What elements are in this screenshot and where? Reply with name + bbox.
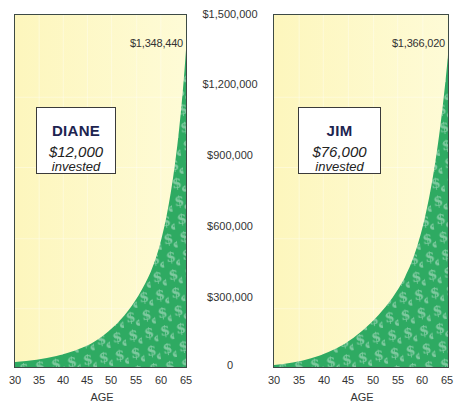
y-tick-1500000: $1,500,000 xyxy=(187,8,273,20)
diane-area-chart: $ $ xyxy=(15,15,186,367)
left-x-tick-30: 30 xyxy=(5,374,25,386)
left-x-tick-50: 50 xyxy=(101,374,121,386)
y-tick-300000: $300,000 xyxy=(187,291,273,303)
right-x-tick-50: 50 xyxy=(363,374,383,386)
y-tick-600000: $600,000 xyxy=(187,220,273,232)
diane-invested-label: invested xyxy=(37,159,115,174)
jim-name: JIM xyxy=(299,122,380,139)
right-x-tick-35: 35 xyxy=(289,374,309,386)
diane-name: DIANE xyxy=(37,122,115,139)
jim-area-chart: $ $ xyxy=(274,15,448,367)
right-x-tick-55: 55 xyxy=(388,374,408,386)
left-x-tick-55: 55 xyxy=(126,374,146,386)
left-x-axis-label: AGE xyxy=(82,391,122,403)
jim-chart-panel: $ $ $1,366,020 JIM $76,000 invested xyxy=(273,14,449,368)
left-x-tick-45: 45 xyxy=(77,374,97,386)
left-x-tick-35: 35 xyxy=(29,374,49,386)
y-tick-900000: $900,000 xyxy=(187,149,273,161)
right-x-tick-60: 60 xyxy=(412,374,432,386)
diane-label-box: DIANE $12,000 invested xyxy=(36,107,116,174)
right-x-axis-label: AGE xyxy=(342,391,382,403)
left-x-tick-65: 65 xyxy=(176,374,196,386)
y-tick-0: 0 xyxy=(187,359,273,371)
jim-invested-amount: $76,000 xyxy=(299,143,380,160)
right-x-tick-45: 45 xyxy=(338,374,358,386)
left-x-tick-40: 40 xyxy=(53,374,73,386)
left-x-tick-60: 60 xyxy=(151,374,171,386)
jim-final-value: $1,366,020 xyxy=(392,37,445,49)
diane-invested-amount: $12,000 xyxy=(37,143,115,160)
right-x-tick-30: 30 xyxy=(264,374,284,386)
jim-invested-label: invested xyxy=(299,159,380,174)
diane-final-value: $1,348,440 xyxy=(130,37,183,49)
right-x-tick-65: 65 xyxy=(437,374,457,386)
right-x-tick-40: 40 xyxy=(314,374,334,386)
diane-chart-panel: $ $ $1,348,440 DIANE $12,000 invested xyxy=(14,14,187,368)
y-tick-1200000: $1,200,000 xyxy=(187,78,273,90)
jim-label-box: JIM $76,000 invested xyxy=(298,107,381,174)
